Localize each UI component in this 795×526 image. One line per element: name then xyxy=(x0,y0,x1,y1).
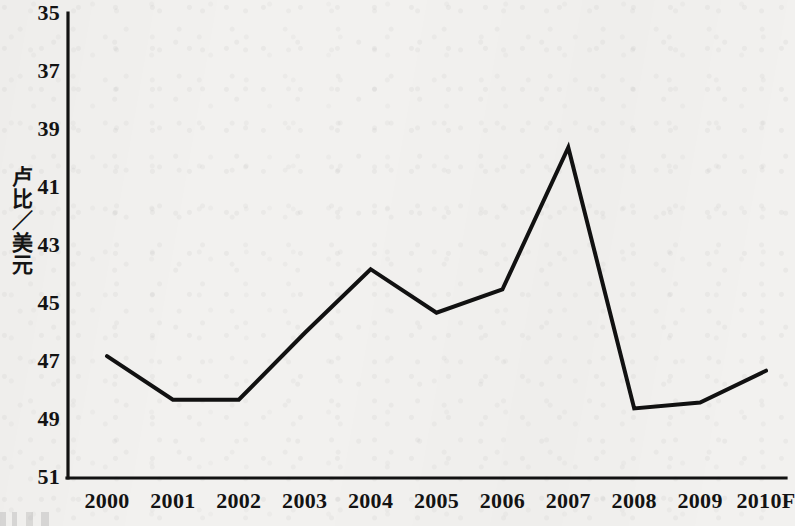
scan-edge-artifact xyxy=(0,512,58,526)
data-series-line xyxy=(107,147,766,408)
axis-lines xyxy=(67,13,786,478)
line-chart: 卢比／美元 353739414345474951 200020012002200… xyxy=(0,0,795,526)
plot-area xyxy=(0,0,795,526)
